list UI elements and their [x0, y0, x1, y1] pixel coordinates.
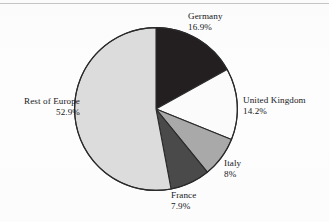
slice-label-germany: Germany 16.9% — [188, 11, 223, 33]
slice-label-germany-name: Germany — [188, 11, 223, 21]
figure-top-rule — [0, 3, 329, 4]
slice-label-united-kingdom: United Kingdom 14.2% — [243, 95, 306, 117]
slice-label-rest-of-europe: Rest of Europe 52.9% — [8, 96, 80, 118]
slice-label-rest-of-europe-value: 52.9% — [8, 107, 80, 118]
slice-label-france: France 7.9% — [171, 190, 196, 212]
slice-label-rest-of-europe-name: Rest of Europe — [24, 96, 80, 106]
slice-label-france-value: 7.9% — [171, 201, 196, 212]
slice-label-germany-value: 16.9% — [188, 22, 223, 33]
slice-label-united-kingdom-name: United Kingdom — [243, 95, 306, 105]
slice-label-italy: Italy 8% — [224, 158, 241, 180]
pie-svg — [73, 26, 239, 192]
pie-chart — [73, 26, 239, 192]
slice-label-france-name: France — [171, 190, 196, 200]
slice-label-united-kingdom-value: 14.2% — [243, 106, 306, 117]
pie-chart-figure: Germany 16.9% United Kingdom 14.2% Italy… — [0, 0, 329, 222]
slice-label-italy-name: Italy — [224, 158, 241, 168]
pie-slices — [75, 28, 238, 191]
slice-label-italy-value: 8% — [224, 169, 241, 180]
